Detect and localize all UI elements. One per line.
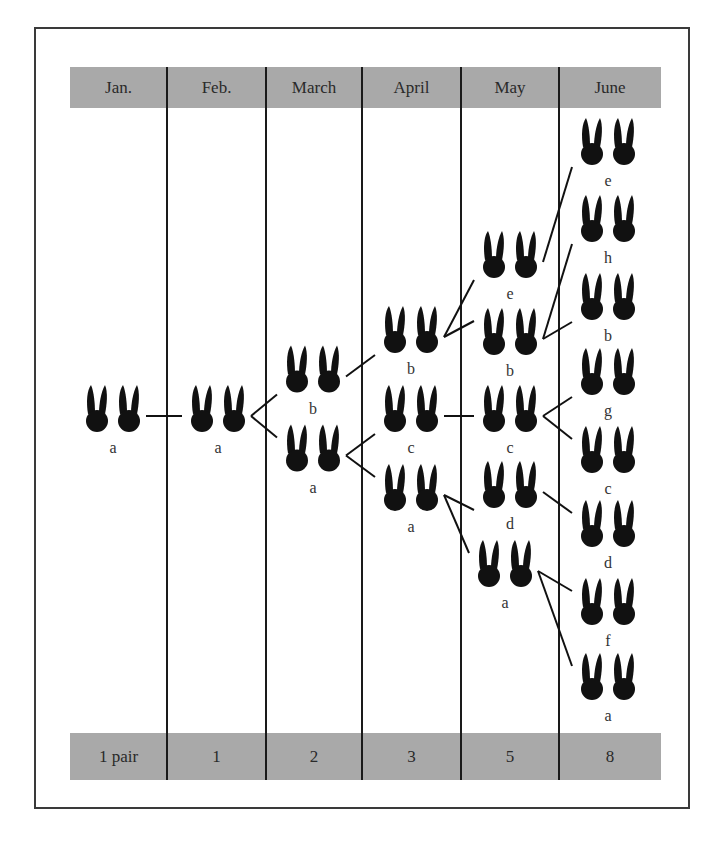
pair-label: b	[604, 327, 612, 344]
rabbit-icon	[318, 425, 340, 472]
rabbit-pair-jun-c: c	[581, 426, 635, 497]
rabbit-icon	[613, 195, 635, 242]
rabbit-icon	[515, 308, 537, 355]
pair-label: f	[605, 632, 611, 649]
rabbit-icon	[384, 306, 406, 353]
descent-link	[543, 492, 572, 513]
pair-label: e	[604, 172, 611, 189]
descent-link	[346, 456, 375, 478]
rabbit-icon	[613, 348, 635, 395]
pair-label: d	[604, 554, 612, 571]
rabbit-icon	[318, 346, 340, 393]
descent-link	[538, 571, 572, 666]
pair-label: a	[309, 479, 316, 496]
pair-label: c	[407, 439, 414, 456]
pair-label: a	[214, 439, 221, 456]
rabbit-pair-jun-d: d	[581, 500, 635, 571]
rabbit-icon	[478, 540, 500, 587]
rabbit-icon	[191, 385, 213, 432]
rabbit-pair-jun-g: g	[581, 348, 635, 420]
rabbit-icon	[483, 385, 505, 432]
rabbit-icon	[613, 500, 635, 547]
pair-label: e	[506, 285, 513, 302]
rabbit-pair-feb-a: a	[191, 385, 245, 456]
rabbit-pair-apr-c: c	[384, 385, 438, 456]
pair-label: a	[501, 594, 508, 611]
rabbit-pair-jun-a: a	[581, 653, 635, 724]
rabbit-icon	[613, 273, 635, 320]
rabbit-icon	[581, 500, 603, 547]
rabbit-icon	[581, 426, 603, 473]
rabbit-icon	[515, 231, 537, 278]
rabbit-icon	[223, 385, 245, 432]
rabbit-icon	[483, 461, 505, 508]
rabbit-icon	[286, 346, 308, 393]
rabbit-icon	[483, 308, 505, 355]
descent-link	[444, 495, 469, 553]
rabbit-icon	[581, 273, 603, 320]
rabbit-icon	[581, 118, 603, 165]
rabbit-pair-jun-h: h	[581, 195, 635, 266]
pair-label: a	[604, 707, 611, 724]
pair-label: h	[604, 249, 612, 266]
rabbit-pair-may-c: c	[483, 385, 537, 456]
pair-label: g	[604, 402, 612, 420]
rabbit-pair-mar-b: b	[286, 346, 340, 417]
rabbit-pair-jun-f: f	[581, 578, 635, 649]
pair-label: c	[506, 439, 513, 456]
rabbit-icon	[613, 578, 635, 625]
pair-label: b	[506, 362, 514, 379]
descent-link	[251, 416, 277, 438]
pair-label: a	[407, 518, 414, 535]
rabbit-pair-jan-a: a	[86, 385, 140, 456]
pair-label: c	[604, 480, 611, 497]
rabbit-icon	[581, 653, 603, 700]
rabbit-pair-mar-a: a	[286, 425, 340, 496]
rabbit-family-tree: aababcaebcdaehbgcdfa	[0, 0, 703, 850]
rabbit-pair-may-b: b	[483, 308, 537, 379]
rabbit-icon	[384, 464, 406, 511]
rabbit-pair-apr-a: a	[384, 464, 438, 535]
rabbit-pair-may-d: d	[483, 461, 537, 532]
rabbit-icon	[286, 425, 308, 472]
rabbit-icon	[483, 231, 505, 278]
rabbit-icon	[613, 118, 635, 165]
rabbit-icon	[613, 653, 635, 700]
descent-link	[251, 395, 277, 417]
rabbit-pair-apr-b: b	[384, 306, 438, 377]
descent-link	[543, 397, 572, 416]
descent-link	[543, 167, 572, 262]
rabbit-icon	[581, 578, 603, 625]
descent-link	[543, 416, 572, 439]
pair-label: b	[309, 400, 317, 417]
rabbit-icon	[416, 464, 438, 511]
rabbit-icon	[515, 385, 537, 432]
rabbit-pair-jun-e: e	[581, 118, 635, 189]
rabbit-icon	[118, 385, 140, 432]
descent-link	[346, 434, 375, 456]
rabbit-pair-may-e: e	[483, 231, 537, 302]
rabbit-icon	[581, 195, 603, 242]
pair-label: a	[109, 439, 116, 456]
descent-link	[346, 355, 375, 377]
rabbit-icon	[416, 385, 438, 432]
pair-label: d	[506, 515, 514, 532]
rabbit-icon	[581, 348, 603, 395]
rabbit-icon	[86, 385, 108, 432]
rabbit-icon	[613, 426, 635, 473]
rabbit-icon	[384, 385, 406, 432]
rabbit-pair-may-a: a	[478, 540, 532, 611]
rabbit-icon	[510, 540, 532, 587]
rabbit-icon	[416, 306, 438, 353]
pair-label: b	[407, 360, 415, 377]
rabbit-icon	[515, 461, 537, 508]
rabbit-pair-jun-b: b	[581, 273, 635, 344]
